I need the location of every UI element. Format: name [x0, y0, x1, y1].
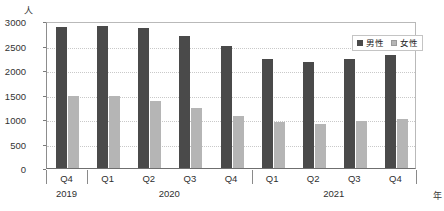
y-axis-tick-text: 1000: [5, 116, 26, 125]
y-axis-tick-mark: [43, 145, 46, 146]
bar-female: [68, 96, 79, 168]
legend-item-female: 女性: [391, 38, 418, 48]
y-axis-tick-mark: [43, 96, 46, 97]
bar-group: [179, 23, 202, 168]
x-axis-category-label: Q2: [128, 173, 169, 184]
y-axis-tick-text: 3000: [5, 18, 26, 27]
x-axis-group-separator: [416, 170, 417, 184]
x-axis-group-separator: [87, 170, 88, 184]
x-axis-category-label: Q4: [210, 173, 251, 184]
legend-swatch-female-icon: [391, 40, 397, 46]
bar-male: [221, 46, 232, 168]
bar-group: [262, 23, 285, 168]
bar-male: [344, 59, 355, 168]
bar-female: [109, 96, 120, 168]
y-axis-tick-mark: [43, 22, 46, 23]
legend-label-male: 男性: [366, 38, 384, 48]
x-axis-year-label: 2020: [87, 188, 251, 199]
y-axis-unit-label: 人: [24, 6, 33, 16]
x-axis-category-label: Q1: [87, 173, 128, 184]
y-axis-tick-mark: [43, 120, 46, 121]
bar-chart: 人 050010001500200025003000 Q4Q1Q2Q3Q4Q1Q…: [0, 0, 444, 211]
x-axis-year-label: 2021: [252, 188, 416, 199]
bar-male: [138, 28, 149, 168]
bar-male: [97, 26, 108, 168]
y-axis-tick-text: 2500: [5, 42, 26, 51]
y-axis-tick-text: 1500: [5, 91, 26, 100]
bar-male: [303, 62, 314, 168]
bar-group: [138, 23, 161, 168]
bar-female: [191, 108, 202, 168]
x-axis-category-label: Q2: [293, 173, 334, 184]
x-axis-year-label: 2019: [46, 188, 87, 199]
bar-male: [56, 27, 67, 168]
legend-label-female: 女性: [400, 38, 418, 48]
bar-female: [274, 122, 285, 168]
bar-group: [56, 23, 79, 168]
bar-male: [385, 55, 396, 168]
bar-female: [315, 124, 326, 168]
bar-male: [179, 36, 190, 168]
bar-female: [397, 119, 408, 168]
bar-female: [233, 116, 244, 168]
bar-male: [262, 59, 273, 168]
x-axis-group-separator: [252, 170, 253, 184]
x-axis-unit-label: 年: [433, 189, 442, 202]
y-axis-tick-mark: [43, 47, 46, 48]
x-axis-category-label: Q3: [334, 173, 375, 184]
bar-female: [150, 101, 161, 168]
bar-female: [356, 121, 367, 168]
y-axis-tick-text: 500: [10, 140, 26, 149]
x-axis-category-label: Q1: [252, 173, 293, 184]
x-axis-category-label: Q4: [375, 173, 416, 184]
x-axis-category-label: Q4: [46, 173, 87, 184]
x-axis-group-separator: [46, 170, 47, 184]
bar-group: [303, 23, 326, 168]
bar-group: [97, 23, 120, 168]
legend-item-male: 男性: [357, 38, 384, 48]
legend-swatch-male-icon: [357, 40, 363, 46]
y-axis-tick-text: 0: [21, 165, 26, 174]
bar-group: [221, 23, 244, 168]
x-axis-category-label: Q3: [169, 173, 210, 184]
y-axis-tick-mark: [43, 71, 46, 72]
y-axis-tick-text: 2000: [5, 67, 26, 76]
chart-legend: 男性 女性: [352, 35, 423, 51]
